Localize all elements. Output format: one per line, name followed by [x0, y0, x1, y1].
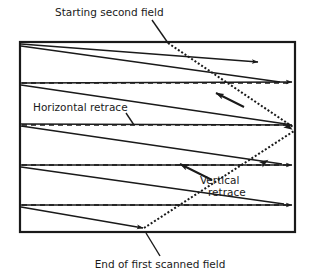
scan-diagram-canvas: Starting second field Horizontal retrace…: [0, 0, 313, 275]
label-horizontal-retrace: Horizontal retrace: [33, 101, 128, 113]
leader-starting-second-field: [152, 20, 168, 43]
vertical-retrace-down: [168, 43, 293, 127]
scan-line-2: [21, 82, 292, 83]
scan-line-1: [21, 44, 258, 62]
scan-line-1b: [21, 46, 280, 82]
leader-end-of-first-scanned-field: [146, 233, 160, 256]
label-end-of-first-scanned-field: End of first scanned field: [95, 258, 226, 270]
scan-line-3b: [21, 126, 282, 164]
pointer-arrow-upper: [216, 93, 244, 107]
label-starting-second-field: Starting second field: [55, 6, 164, 18]
label-vertical-retrace-line2: retrace: [208, 186, 246, 198]
scan-line-3: [21, 124, 292, 125]
leader-horizontal-retrace: [126, 113, 134, 125]
scan-line-5b: [21, 207, 143, 228]
scan-trace-lines: [21, 44, 292, 228]
annotation-pointer-arrows: [180, 93, 244, 180]
raster-scan-diagram: Starting second field Horizontal retrace…: [0, 0, 313, 275]
vertical-retrace-lines: [144, 43, 294, 228]
label-vertical-retrace-line1: Vertical: [200, 174, 239, 186]
raster-screen-border: [20, 42, 295, 232]
